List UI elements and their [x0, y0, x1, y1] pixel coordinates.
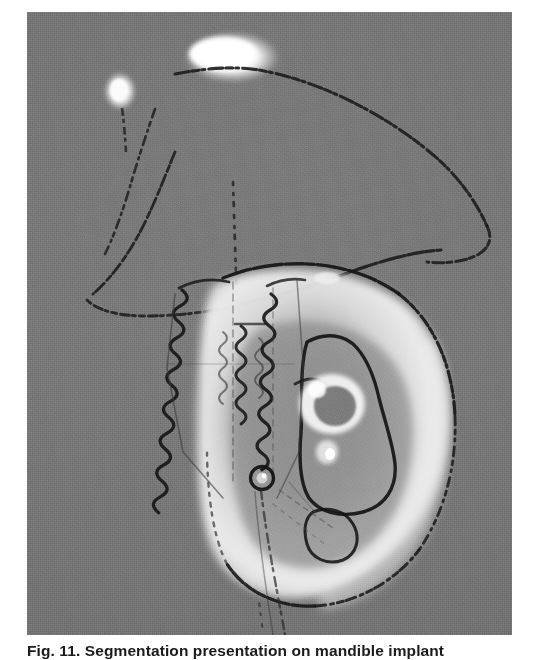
- scan-vector-layer: [27, 12, 512, 635]
- figure-caption-text: Fig. 11. Segmentation presentation on ma…: [27, 641, 512, 660]
- mandible-body: [197, 270, 450, 600]
- figure-caption: Fig. 11. Segmentation presentation on ma…: [27, 641, 512, 660]
- figure-page: Fig. 11. Segmentation presentation on ma…: [0, 0, 534, 660]
- implant-thread-1: [153, 289, 188, 513]
- upper-notch-highlight: [314, 272, 340, 284]
- figure-caption-label: Fig. 11.: [27, 642, 80, 659]
- ct-scan-image: [27, 12, 512, 635]
- figure-caption-body: Segmentation presentation on mandible im…: [85, 642, 444, 659]
